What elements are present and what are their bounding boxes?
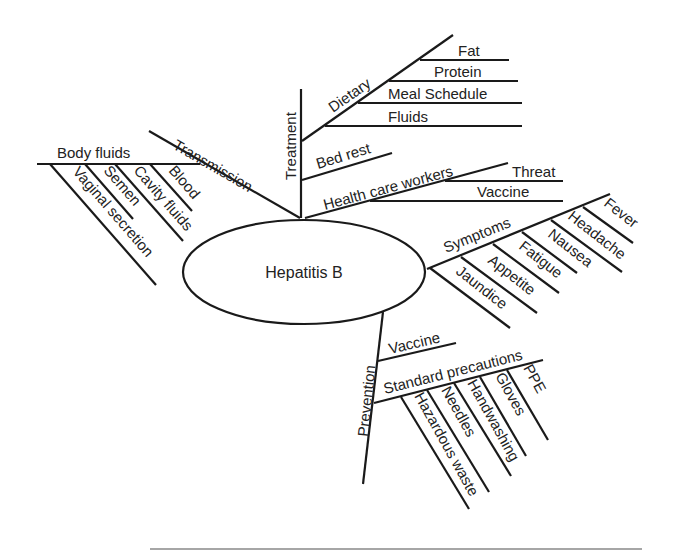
branch-transmission: Transmission Body fluids Vaginal secreti… — [37, 131, 300, 285]
fat-label: Fat — [458, 42, 481, 59]
ppe-label: PPE — [520, 361, 549, 395]
sub-branch-dietary: Dietary Fat Protein Meal Schedule Fluids — [302, 35, 522, 141]
protein-label: Protein — [434, 63, 482, 80]
branch-symptoms: Symptoms Jaundice Appetite Fatigue Nause… — [427, 194, 642, 328]
sub-branch-health-care-workers: Health care workers Threat Vaccine — [305, 162, 563, 218]
center-label: Hepatitis B — [265, 264, 342, 281]
sub-branch-prevention-vaccine: Vaccine — [378, 329, 456, 361]
sub-branch-standard-precautions: Standard precautions Hazardous waste Nee… — [374, 346, 550, 509]
prevention-label: Prevention — [354, 364, 378, 437]
fluids-label: Fluids — [388, 108, 428, 125]
health-care-workers-label: Health care workers — [321, 162, 454, 213]
branch-treatment: Treatment Dietary Fat Protein Meal Sched… — [282, 35, 563, 218]
meal-schedule-label: Meal Schedule — [388, 85, 487, 102]
hepatitis-b-mind-map: Hepatitis B Transmission Body fluids Vag… — [0, 0, 673, 553]
sub-branch-bed-rest: Bed rest — [302, 139, 392, 180]
body-fluids-label: Body fluids — [57, 144, 130, 161]
threat-label: Threat — [512, 163, 556, 180]
branch-prevention: Prevention Vaccine Standard precautions … — [354, 312, 550, 509]
center-node: Hepatitis B — [183, 220, 425, 324]
hcw-vaccine-label: Vaccine — [477, 183, 529, 200]
treatment-label: Treatment — [282, 111, 299, 180]
sub-branch-body-fluids: Body fluids Vaginal secretion Semen Cavi… — [37, 144, 204, 285]
